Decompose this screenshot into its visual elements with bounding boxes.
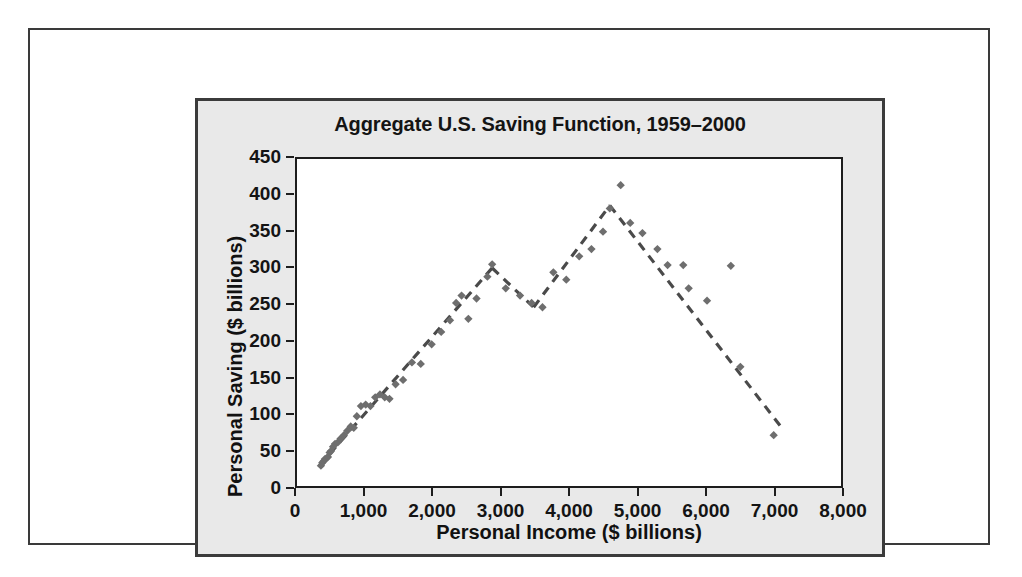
x-axis-tick-label: 3,000	[477, 500, 525, 522]
data-point-marker	[472, 294, 480, 302]
y-axis-tick-label: 450	[231, 146, 281, 168]
chart-panel: Aggregate U.S. Saving Function, 1959–200…	[195, 98, 885, 557]
y-axis-tick-label: 0	[231, 477, 281, 499]
data-point-marker	[538, 303, 546, 311]
data-point-marker	[727, 262, 735, 270]
y-axis-tick-mark	[286, 156, 294, 158]
y-axis-tick-mark	[286, 487, 294, 489]
y-axis-tick-mark	[286, 266, 294, 268]
y-axis-tick-label: 50	[231, 440, 281, 462]
data-point-marker	[399, 376, 407, 384]
x-axis-tick-label: 7,000	[751, 500, 799, 522]
x-axis-tick-mark	[294, 488, 296, 496]
chart-title: Aggregate U.S. Saving Function, 1959–200…	[198, 113, 882, 136]
y-axis-tick-label: 250	[231, 293, 281, 315]
data-point-marker	[417, 360, 425, 368]
y-axis-tick-label: 100	[231, 403, 281, 425]
data-point-marker	[587, 245, 595, 253]
x-axis-tick-mark	[431, 488, 433, 496]
y-axis-tick-mark	[286, 340, 294, 342]
trendline-segment	[610, 206, 782, 428]
data-point-marker	[770, 431, 778, 439]
x-axis-tick-mark	[568, 488, 570, 496]
y-axis-tick-mark	[286, 230, 294, 232]
x-axis-tick-label: 4,000	[545, 500, 593, 522]
scatter-plot-svg	[297, 159, 841, 486]
y-axis-tick-mark	[286, 413, 294, 415]
data-point-marker	[464, 315, 472, 323]
data-point-marker	[575, 252, 583, 260]
x-axis-tick-mark	[842, 488, 844, 496]
data-points-group	[317, 181, 778, 470]
x-axis-tick-label: 6,000	[682, 500, 730, 522]
data-point-marker	[599, 228, 607, 236]
x-axis-tick-mark	[363, 488, 365, 496]
y-axis-tick-mark	[286, 377, 294, 379]
y-axis-tick-mark	[286, 303, 294, 305]
y-axis-tick-label: 300	[231, 256, 281, 278]
plot-area	[295, 157, 843, 488]
data-point-marker	[626, 219, 634, 227]
x-axis-tick-label: 8,000	[819, 500, 867, 522]
data-point-marker	[653, 245, 661, 253]
data-point-marker	[638, 229, 646, 237]
x-axis-tick-label: 0	[290, 500, 301, 522]
data-point-marker	[457, 291, 465, 299]
data-point-marker	[562, 275, 570, 283]
x-axis-tick-label: 1,000	[340, 500, 388, 522]
data-point-marker	[483, 273, 491, 281]
trendline-group	[319, 206, 781, 466]
y-axis-tick-mark	[286, 450, 294, 452]
data-point-marker	[679, 261, 687, 269]
data-point-marker	[685, 284, 693, 292]
x-axis-tick-mark	[637, 488, 639, 496]
data-point-marker	[663, 261, 671, 269]
data-point-marker	[617, 181, 625, 189]
data-point-marker	[703, 297, 711, 305]
y-axis-tick-label: 150	[231, 367, 281, 389]
trendline-segment	[492, 268, 533, 307]
x-axis-tick-mark	[774, 488, 776, 496]
x-axis-tick-mark	[705, 488, 707, 496]
figure-outer-frame: Aggregate U.S. Saving Function, 1959–200…	[28, 28, 990, 545]
data-point-marker	[353, 412, 361, 420]
y-axis-tick-mark	[286, 193, 294, 195]
x-axis-tick-mark	[500, 488, 502, 496]
y-axis-tick-label: 350	[231, 220, 281, 242]
y-axis-tick-label: 200	[231, 330, 281, 352]
x-axis-title: Personal Income ($ billions)	[295, 521, 843, 544]
y-axis-tick-label: 400	[231, 183, 281, 205]
data-point-marker	[488, 260, 496, 268]
x-axis-tick-label: 5,000	[614, 500, 662, 522]
x-axis-tick-label: 2,000	[408, 500, 456, 522]
trendline-segment	[534, 206, 610, 308]
